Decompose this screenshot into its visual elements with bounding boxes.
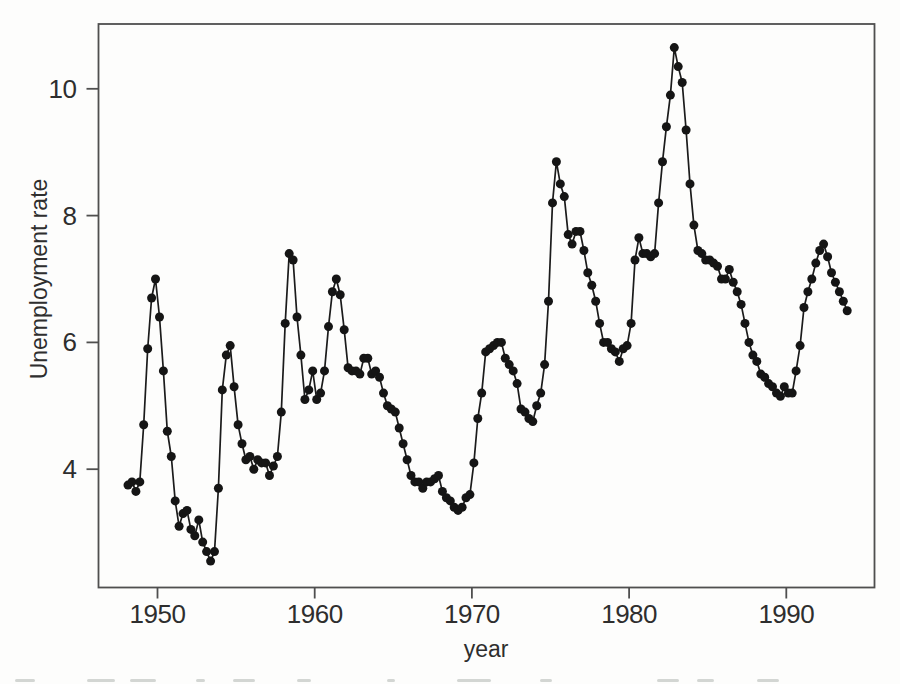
data-point <box>835 287 844 296</box>
data-point <box>163 427 172 436</box>
data-point <box>399 439 408 448</box>
data-point <box>238 439 247 448</box>
data-point <box>658 157 667 166</box>
caption-fragment <box>233 679 255 682</box>
data-point <box>143 344 152 353</box>
data-point <box>340 325 349 334</box>
data-point <box>595 319 604 328</box>
data-point <box>662 122 671 131</box>
data-point <box>300 395 309 404</box>
data-point <box>544 297 553 306</box>
data-point <box>214 484 223 493</box>
data-point <box>391 408 400 417</box>
data-point <box>536 389 545 398</box>
data-point <box>131 487 140 496</box>
data-point <box>175 522 184 531</box>
data-point <box>576 227 585 236</box>
data-point <box>265 471 274 480</box>
data-point <box>689 221 698 230</box>
data-point <box>583 268 592 277</box>
data-point <box>823 252 832 261</box>
data-point <box>151 275 160 284</box>
data-point <box>210 547 219 556</box>
data-point <box>528 417 537 426</box>
data-point <box>568 240 577 249</box>
x-tick-label: 1960 <box>287 599 343 629</box>
data-point <box>843 306 852 315</box>
data-point <box>135 477 144 486</box>
data-point <box>190 531 199 540</box>
data-point <box>375 373 384 382</box>
data-point <box>634 233 643 242</box>
x-tick-label: 1970 <box>444 599 500 629</box>
data-point <box>513 379 522 388</box>
data-point <box>796 341 805 350</box>
data-point <box>752 357 761 366</box>
y-tick-label: 10 <box>49 74 77 104</box>
data-point <box>827 268 836 277</box>
data-point <box>737 300 746 309</box>
data-point <box>532 401 541 410</box>
data-point <box>741 319 750 328</box>
data-point <box>218 385 227 394</box>
data-point <box>324 322 333 331</box>
data-point <box>615 357 624 366</box>
y-tick-label: 4 <box>63 454 77 484</box>
data-point <box>788 389 797 398</box>
data-point <box>277 408 286 417</box>
data-point <box>733 287 742 296</box>
data-point <box>249 465 258 474</box>
data-point <box>721 275 730 284</box>
data-point <box>206 557 215 566</box>
data-point <box>316 389 325 398</box>
data-point <box>666 91 675 100</box>
data-point <box>469 458 478 467</box>
caption-fragment <box>457 679 491 682</box>
data-point <box>139 420 148 429</box>
data-point <box>395 424 404 433</box>
caption-fragment <box>15 679 35 682</box>
data-point <box>171 496 180 505</box>
data-point <box>465 490 474 499</box>
data-point <box>198 538 207 547</box>
data-point <box>807 275 816 284</box>
caption-fragment <box>87 679 115 682</box>
data-point <box>328 287 337 296</box>
data-point <box>631 256 640 265</box>
data-point <box>587 281 596 290</box>
data-point <box>403 455 412 464</box>
data-point <box>128 477 137 486</box>
y-tick-label: 6 <box>63 327 77 357</box>
data-point <box>591 297 600 306</box>
caption-fragment <box>196 679 205 682</box>
data-point <box>839 297 848 306</box>
data-point <box>336 290 345 299</box>
data-point <box>560 192 569 201</box>
data-point <box>355 370 364 379</box>
data-point <box>183 506 192 515</box>
data-point <box>473 414 482 423</box>
data-point <box>670 43 679 52</box>
data-point <box>202 547 211 556</box>
data-point <box>234 420 243 429</box>
figure: 1950196019701980199046810 Unemployment r… <box>0 0 900 684</box>
data-point <box>167 452 176 461</box>
data-point <box>458 503 467 512</box>
data-point <box>261 458 270 467</box>
data-point <box>725 265 734 274</box>
data-point <box>776 392 785 401</box>
y-axis-title: Unemployment rate <box>26 179 53 380</box>
data-point <box>363 354 372 363</box>
data-point <box>497 338 506 347</box>
data-point <box>623 341 632 350</box>
data-point <box>564 230 573 239</box>
data-point <box>792 366 801 375</box>
caption-fragment <box>657 679 679 682</box>
x-tick-label: 1980 <box>601 599 657 629</box>
caption-fragment <box>540 679 552 682</box>
data-point <box>379 389 388 398</box>
data-point <box>155 313 164 322</box>
data-point <box>686 179 695 188</box>
caption-fragment <box>757 679 779 682</box>
data-point <box>308 366 317 375</box>
